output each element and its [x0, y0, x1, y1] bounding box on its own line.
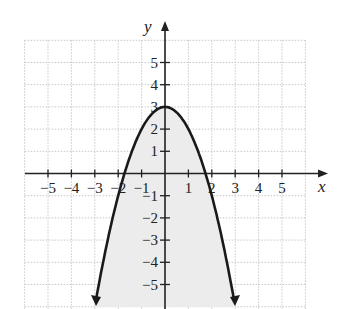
- y-tick-label: −3: [142, 232, 158, 248]
- y-tick-label: −4: [142, 254, 158, 270]
- x-axis-label: x: [317, 177, 326, 196]
- x-tick-label: 4: [255, 180, 263, 196]
- y-tick-label: 2: [151, 121, 159, 137]
- y-tick-label: 5: [151, 55, 159, 71]
- x-tick-label: 3: [231, 180, 239, 196]
- x-tick-label: −4: [63, 180, 79, 196]
- x-tick-label: 5: [278, 180, 286, 196]
- y-tick-label: −2: [142, 210, 158, 226]
- y-tick-label: −5: [142, 277, 158, 293]
- x-tick-label: 1: [185, 180, 193, 196]
- y-tick-label: 1: [151, 143, 159, 159]
- y-axis-arrow-icon: [161, 21, 169, 31]
- x-tick-label: −5: [40, 180, 56, 196]
- y-tick-label: −1: [142, 188, 158, 204]
- x-tick-label: −3: [87, 180, 103, 196]
- y-tick-label: 4: [151, 77, 159, 93]
- parabola-chart: −5−4−3−2−112345 −5−4−3−2−112345 x y: [0, 0, 339, 309]
- y-axis-label: y: [142, 17, 152, 36]
